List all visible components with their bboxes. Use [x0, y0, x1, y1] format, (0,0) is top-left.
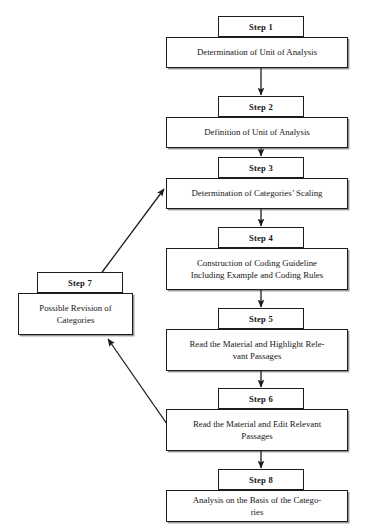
step-tab-step6: Step 6 — [218, 388, 304, 409]
node-text-step1: Determination of Unit of Analysis — [193, 46, 321, 58]
step-tab-label-step1: Step 1 — [249, 22, 273, 32]
step-tab-label-step3: Step 3 — [249, 163, 273, 173]
step-tab-label-step6: Step 6 — [249, 394, 273, 404]
node-text-step4: Construction of Coding Guideline Includi… — [187, 257, 327, 281]
step-tab-step2: Step 2 — [218, 96, 304, 117]
step-tab-label-step4: Step 4 — [249, 233, 273, 243]
node-box-step3: Determination of Categories’ Scaling — [166, 178, 348, 209]
node-text-step5: Read the Material and Highlight Rele- va… — [185, 338, 328, 362]
step-tab-label-step8: Step 8 — [249, 475, 273, 485]
step-tab-label-step2: Step 2 — [249, 102, 273, 112]
node-box-step6: Read the Material and Edit Relevant Pass… — [166, 409, 348, 451]
step-tab-label-step7: Step 7 — [68, 278, 92, 288]
flowchart-diagram: Step 1 Determination of Unit of Analysis… — [0, 0, 365, 528]
step-tab-step4: Step 4 — [218, 227, 304, 248]
connector-step6-step7 — [108, 339, 167, 424]
node-text-step3: Determination of Categories’ Scaling — [187, 187, 326, 199]
step-tab-step8: Step 8 — [218, 469, 304, 490]
step-tab-step5: Step 5 — [218, 308, 304, 329]
connector-step7-step3 — [100, 189, 164, 275]
node-text-step7: Possible Revision of Categories — [35, 302, 115, 326]
step-tab-label-step5: Step 5 — [249, 314, 273, 324]
node-box-step5: Read the Material and Highlight Rele- va… — [166, 329, 348, 371]
step-tab-step1: Step 1 — [218, 16, 304, 37]
step-tab-step3: Step 3 — [218, 157, 304, 178]
node-box-step8: Analysis on the Basis of the Catego- rie… — [166, 490, 348, 522]
node-text-step6: Read the Material and Edit Relevant Pass… — [189, 418, 325, 442]
step-tab-step7: Step 7 — [37, 272, 123, 293]
node-box-step2: Definition of Unit of Analysis — [166, 117, 348, 148]
node-text-step2: Definition of Unit of Analysis — [200, 126, 314, 138]
node-box-step1: Determination of Unit of Analysis — [166, 37, 348, 68]
node-box-step7: Possible Revision of Categories — [18, 293, 133, 335]
node-box-step4: Construction of Coding Guideline Includi… — [166, 248, 348, 290]
node-text-step8: Analysis on the Basis of the Catego- rie… — [189, 494, 326, 518]
